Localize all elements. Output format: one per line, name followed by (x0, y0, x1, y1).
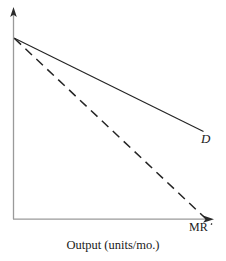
marginal-revenue-curve-label: MR (189, 221, 208, 233)
demand-marginal-revenue-figure: D MR Output (units/mo.) (0, 0, 226, 261)
demand-curve-label: D (201, 132, 210, 145)
demand-curve (14, 38, 204, 132)
x-axis-caption: Output (units/mo.) (0, 239, 226, 253)
marginal-revenue-curve (15, 39, 213, 225)
